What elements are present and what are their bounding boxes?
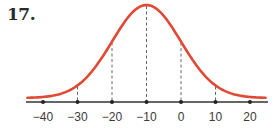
dashed-reference-lines [78,6,216,102]
tick-label: 20 [243,110,257,124]
tick-dot [214,100,218,104]
tick-dot [41,100,45,104]
tick-label: −20 [102,110,123,124]
tick-dot [110,100,114,104]
tick-label: −30 [67,110,88,124]
normal-curve-chart: −40−30−20−1001020 [0,0,276,131]
x-axis-ticks: −40−30−20−1001020 [33,100,257,124]
tick-label: 0 [178,110,185,124]
tick-dot [248,100,252,104]
tick-dot [76,100,80,104]
tick-dot [145,100,149,104]
tick-label: −10 [136,110,157,124]
tick-label: −40 [33,110,54,124]
tick-dot [179,100,183,104]
tick-label: 10 [209,110,223,124]
